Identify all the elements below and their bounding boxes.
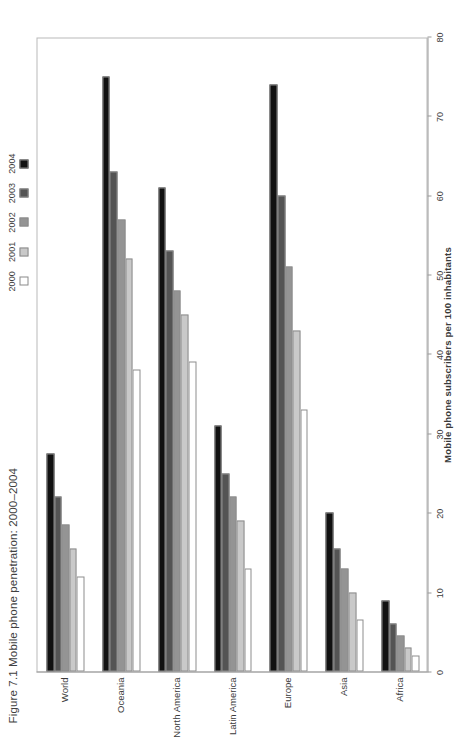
bar-europe-2003	[277, 195, 285, 671]
value-axis-title: Mobile phone subscribers per 100 inhabit…	[441, 37, 452, 672]
bar-world-2002	[61, 524, 69, 671]
category-label-asia: Asia	[338, 677, 349, 695]
legend-swatch-icon	[19, 276, 28, 285]
bar-latin-america-2001	[236, 520, 244, 671]
bar-asia-2002	[340, 568, 348, 671]
bar-europe-2004	[269, 84, 277, 671]
bar-oceania-2001	[125, 258, 133, 671]
legend-label: 2001	[6, 241, 16, 261]
axis-tick	[427, 115, 431, 116]
chart-legend: 20002001200220032004	[3, 149, 31, 295]
axis-tick	[427, 274, 431, 275]
bar-africa-2000	[411, 655, 419, 671]
category-axis-line	[36, 671, 427, 672]
bar-europe-2002	[285, 266, 293, 671]
legend-label: 2003	[6, 182, 16, 202]
legend-item-2002[interactable]: 2002	[6, 212, 28, 232]
legend-label: 2004	[6, 153, 16, 173]
legend-swatch-icon	[19, 159, 28, 168]
bar-africa-2001	[404, 647, 412, 671]
axis-tick	[427, 354, 431, 355]
bar-oceania-2004	[102, 76, 110, 671]
legend-item-2003[interactable]: 2003	[6, 182, 28, 202]
bar-north-america-2004	[158, 187, 166, 671]
plot-area	[37, 38, 426, 671]
bar-world-2000	[76, 576, 84, 671]
category-label-oceania: Oceania	[114, 677, 125, 712]
bar-asia-2001	[348, 592, 356, 671]
legend-item-2004[interactable]: 2004	[6, 153, 28, 173]
bar-africa-2004	[381, 600, 389, 671]
category-label-europe: Europe	[282, 677, 293, 708]
bar-asia-2000	[356, 619, 364, 671]
bar-north-america-2000	[188, 361, 196, 671]
plot-frame	[36, 37, 427, 672]
axis-tick	[427, 592, 431, 593]
legend-item-2001[interactable]: 2001	[6, 241, 28, 261]
category-label-africa: Africa	[394, 677, 405, 701]
legend-swatch-icon	[19, 188, 28, 197]
bar-europe-2001	[292, 330, 300, 671]
bar-asia-2003	[333, 548, 341, 671]
legend-swatch-icon	[19, 217, 28, 226]
category-label-world: World	[58, 677, 69, 702]
legend-label: 2000	[6, 271, 16, 291]
legend-swatch-icon	[19, 247, 28, 256]
bar-latin-america-2004	[214, 425, 222, 671]
bar-oceania-2000	[132, 369, 140, 671]
axis-tick	[427, 671, 431, 672]
legend-item-2000[interactable]: 2000	[6, 271, 28, 291]
bar-europe-2000	[300, 409, 308, 671]
axis-tick	[427, 512, 431, 513]
bar-oceania-2002	[117, 219, 125, 671]
category-label-latin-america: Latin America	[226, 677, 237, 735]
bar-north-america-2003	[165, 250, 173, 671]
bar-latin-america-2003	[221, 473, 229, 671]
bar-africa-2003	[389, 623, 397, 671]
figure-title: Figure 7.1 Mobile phone penetration: 200…	[6, 467, 18, 723]
axis-tick	[427, 433, 431, 434]
bar-africa-2002	[396, 635, 404, 671]
bar-world-2004	[46, 453, 54, 671]
bar-oceania-2003	[109, 171, 117, 671]
bar-asia-2004	[325, 512, 333, 671]
legend-label: 2002	[6, 212, 16, 232]
bar-latin-america-2000	[244, 568, 252, 671]
value-axis-line: 01020304050607080	[427, 37, 428, 672]
axis-tick	[427, 195, 431, 196]
bar-latin-america-2002	[229, 496, 237, 671]
category-label-north-america: North America	[170, 677, 181, 737]
bar-north-america-2002	[173, 290, 181, 671]
bar-world-2003	[54, 496, 62, 671]
bar-north-america-2001	[180, 314, 188, 671]
bar-world-2001	[69, 548, 77, 671]
axis-tick	[427, 36, 431, 37]
